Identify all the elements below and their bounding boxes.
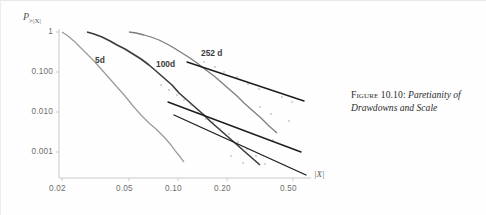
tail-scatter-points bbox=[160, 61, 292, 164]
y-tick-label-1: 1 bbox=[19, 27, 53, 36]
y-axis-title: P>|X| bbox=[23, 11, 41, 25]
curve-100d bbox=[87, 32, 260, 165]
curve-label-252d: 252 d bbox=[201, 48, 222, 58]
curve-5d bbox=[62, 32, 184, 162]
reference-lines bbox=[168, 62, 306, 175]
y-tick-label-0.001: 0.001 bbox=[11, 147, 53, 156]
curve-label-100d: 100d bbox=[156, 59, 175, 69]
y-tick-label-0.100: 0.100 bbox=[11, 67, 53, 76]
x-tick-label-0.10: 0.10 bbox=[165, 184, 182, 193]
x-tick-label-0.05: 0.05 bbox=[116, 184, 133, 193]
curve-label-5d: 5d bbox=[95, 55, 105, 65]
figure-page: P>|X| |X| 1 0.100 0.010 0.001 0.02 0.05 … bbox=[0, 0, 486, 215]
x-tick-label-0.02: 0.02 bbox=[49, 184, 66, 193]
figure-caption-number: Figure 10.10: bbox=[351, 89, 406, 100]
fit-line-252d bbox=[187, 62, 304, 101]
fit-line-5d bbox=[174, 115, 306, 175]
log-log-survival-chart: P>|X| |X| 1 0.100 0.010 0.001 0.02 0.05 … bbox=[1, 1, 341, 215]
figure-caption: Figure 10.10: Paretianity of Drawdowns a… bbox=[351, 89, 479, 114]
fit-line-100d bbox=[168, 102, 301, 152]
x-tick-label-0.20: 0.20 bbox=[214, 184, 231, 193]
x-tick-label-0.50: 0.50 bbox=[280, 184, 297, 193]
y-tick-label-0.010: 0.010 bbox=[11, 107, 53, 116]
x-axis-title: |X| bbox=[314, 169, 324, 179]
y-axis-title-sub: >|X| bbox=[29, 17, 41, 25]
axis-lines bbox=[59, 29, 311, 178]
